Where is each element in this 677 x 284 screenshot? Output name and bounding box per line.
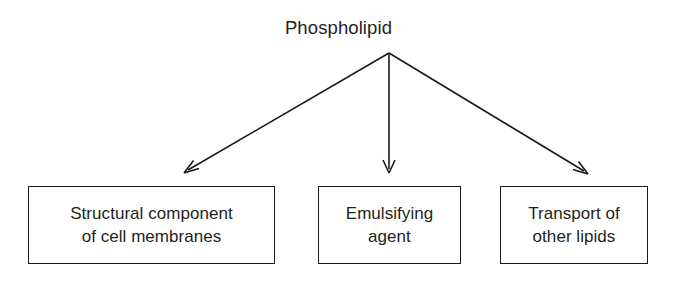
leaf-box-line-1: Structural component: [70, 202, 233, 225]
leaf-box-line-2: other lipids: [533, 225, 616, 248]
leaf-box-emulsifying-agent: Emulsifying agent: [318, 186, 461, 264]
leaf-box-line-1: Transport of: [528, 202, 620, 225]
arrow-to-emulsifying-agent-head: [383, 160, 395, 173]
leaf-box-line-2: of cell membranes: [82, 225, 222, 248]
leaf-box-structural-component: Structural component of cell membranes: [28, 186, 275, 264]
phospholipid-diagram: Phospholipid Structural component of cel…: [0, 0, 677, 284]
arrow-to-structural-component-line: [188, 53, 389, 170]
arrow-to-transport-of-other-lipids-head: [573, 162, 588, 175]
arrow-to-transport-of-other-lipids-line: [389, 53, 584, 171]
root-node-label: Phospholipid: [0, 17, 677, 39]
leaf-box-line-2: agent: [368, 225, 411, 248]
leaf-box-transport-of-other-lipids: Transport of other lipids: [500, 186, 648, 264]
arrow-to-structural-component-head: [184, 161, 199, 174]
leaf-box-line-1: Emulsifying: [346, 202, 433, 225]
